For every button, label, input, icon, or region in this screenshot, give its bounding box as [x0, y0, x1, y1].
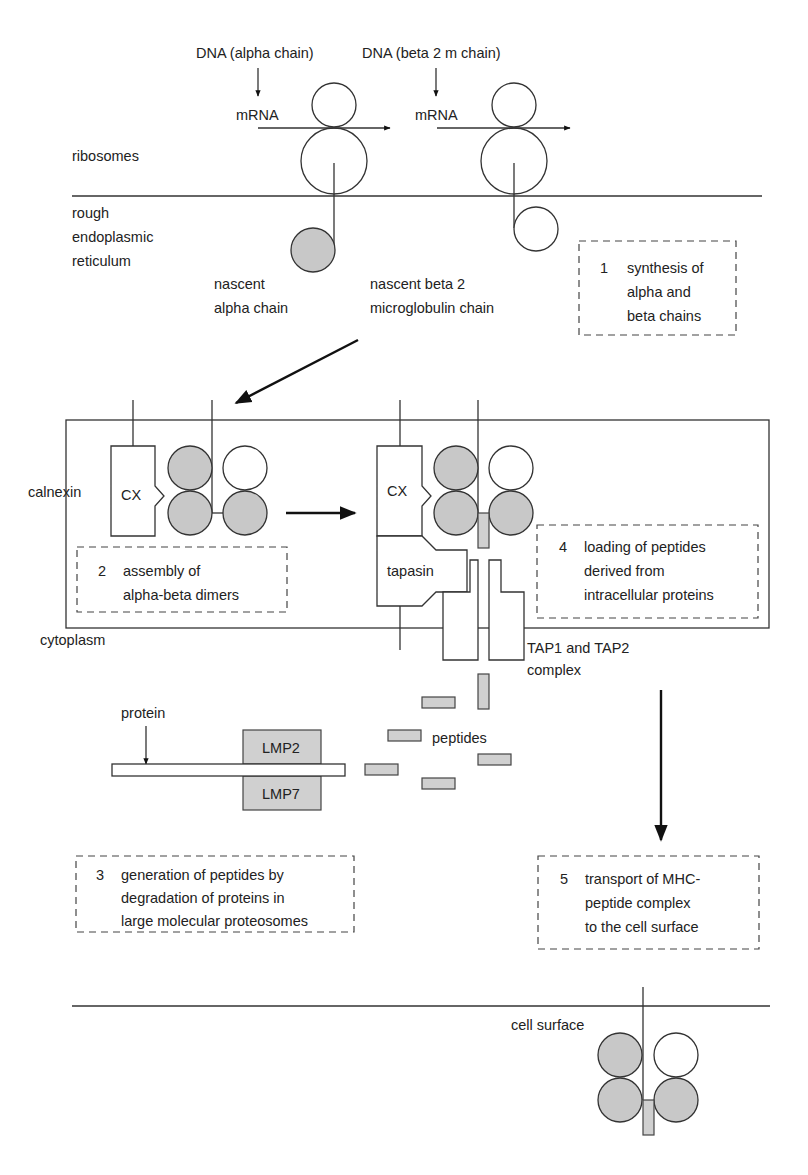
nascent-alpha-label-1: nascent	[214, 276, 265, 292]
ribosome-small-subunit-1	[312, 83, 356, 127]
nascent-beta-label-1: nascent beta 2	[370, 276, 465, 292]
peptide-fragment	[388, 730, 421, 741]
beta2m-domain-1	[223, 491, 267, 535]
step-1-line-2: alpha and	[627, 284, 691, 300]
surface-alpha3-domain	[598, 1078, 642, 1122]
step-5-number: 5	[560, 871, 568, 887]
step-4-line-2: derived from	[584, 563, 665, 579]
alpha2-empty-domain-1	[223, 446, 267, 490]
alpha2-empty-domain-2	[489, 446, 533, 490]
nascent-alpha-domain	[291, 228, 335, 272]
tap-label-2: complex	[527, 662, 582, 678]
peptide-fragment	[422, 778, 455, 789]
protein-label: protein	[121, 705, 165, 721]
nascent-beta2m-domain	[514, 207, 558, 251]
tapasin-label: tapasin	[387, 563, 434, 579]
surface-alpha2-domain	[654, 1033, 698, 1077]
loaded-peptide	[478, 513, 489, 548]
step-4-number: 4	[559, 539, 567, 555]
rer-label-3: reticulum	[72, 253, 131, 269]
rer-label-1: rough	[72, 205, 109, 221]
dna-beta-label: DNA (beta 2 m chain)	[362, 45, 501, 61]
step-2-line-1: assembly of	[123, 563, 201, 579]
peptide-fragment	[422, 697, 455, 708]
translocation-arrow	[236, 340, 358, 403]
alpha1-domain-2	[434, 446, 478, 490]
step-4-line-3: intracellular proteins	[584, 587, 714, 603]
surface-alpha1-domain	[598, 1033, 642, 1077]
step-5-line-3: to the cell surface	[585, 919, 699, 935]
step-1-number: 1	[600, 260, 608, 276]
step-5-line-1: transport of MHC-	[585, 871, 700, 887]
step-5-line-2: peptide complex	[585, 895, 691, 911]
step-2-number: 2	[98, 563, 106, 579]
tap-label-1: TAP1 and TAP2	[527, 640, 629, 656]
surface-presented-peptide	[643, 1100, 654, 1135]
alpha3-domain-1	[168, 491, 212, 535]
proteasome-section: protein LMP2 LMP7 peptides 3 generation …	[76, 674, 511, 932]
alpha1-domain-1	[168, 446, 212, 490]
alpha3-domain-2	[434, 491, 478, 535]
mhc-class-i-pathway-diagram: DNA (alpha chain) DNA (beta 2 m chain) m…	[0, 0, 808, 1175]
cx-label-1: CX	[121, 487, 141, 503]
nascent-alpha-label-2: alpha chain	[214, 300, 288, 316]
step-3-number: 3	[96, 867, 104, 883]
step-1-line-3: beta chains	[627, 308, 701, 324]
surface-beta2m-domain	[654, 1078, 698, 1122]
step-1-line-1: synthesis of	[627, 260, 705, 276]
peptide-fragment	[478, 754, 511, 765]
calnexin-label: calnexin	[28, 484, 81, 500]
peptide-fragment	[478, 674, 489, 709]
cell-surface-section: cell surface	[72, 987, 770, 1135]
cell-surface-label: cell surface	[511, 1017, 584, 1033]
mrna-label-1: mRNA	[236, 107, 279, 123]
mrna-label-2: mRNA	[415, 107, 458, 123]
cx-label-2: CX	[387, 483, 407, 499]
step-3-line-3: large molecular proteosomes	[121, 913, 308, 929]
step-4-line-1: loading of peptides	[584, 539, 706, 555]
lmp7-label: LMP7	[262, 786, 300, 802]
lmp2-label: LMP2	[262, 740, 300, 756]
peptides-label: peptides	[432, 730, 487, 746]
cytoplasm-label: cytoplasm	[40, 632, 105, 648]
ribosome-small-subunit-2	[492, 83, 536, 127]
ribosomes-label: ribosomes	[72, 148, 139, 164]
ribosome-section: DNA (alpha chain) DNA (beta 2 m chain) m…	[72, 45, 762, 335]
step-2-line-2: alpha-beta dimers	[123, 587, 239, 603]
step-3-line-2: degradation of proteins in	[121, 890, 285, 906]
peptide-fragment	[365, 764, 398, 775]
rer-label-2: endoplasmic	[72, 229, 153, 245]
step-3-line-1: generation of peptides by	[121, 867, 285, 883]
tap2	[489, 560, 524, 660]
beta2m-domain-2	[489, 491, 533, 535]
protein-chain	[112, 764, 345, 776]
nascent-beta-label-2: microglobulin chain	[370, 300, 494, 316]
er-compartment: calnexin cytoplasm CX 2 assembly of alph…	[28, 400, 769, 678]
dna-alpha-label: DNA (alpha chain)	[196, 45, 314, 61]
